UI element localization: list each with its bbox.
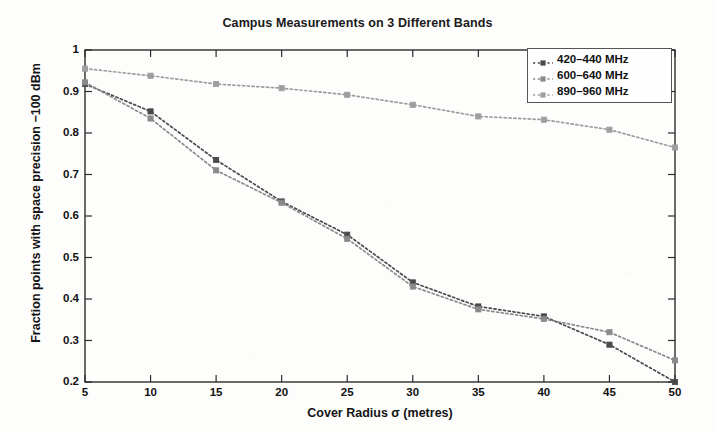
series-line-0	[85, 84, 675, 382]
series-600-640-mhz	[82, 80, 677, 363]
series-0-marker-9	[672, 379, 677, 384]
x-tick-label-6: 35	[458, 386, 498, 398]
series-0-marker-2	[214, 157, 219, 162]
x-tick-label-7: 40	[524, 386, 564, 398]
series-2-marker-3	[279, 86, 284, 91]
series-1-marker-5	[410, 284, 415, 289]
y-tick-label-6: 0.4	[39, 292, 79, 304]
figure-canvas: Campus Measurements on 3 Different Bands…	[0, 0, 715, 433]
legend-item-2[interactable]: 890–960 MHz	[528, 83, 671, 99]
series-2-marker-1	[148, 73, 153, 78]
legend-item-1[interactable]: 600–640 MHz	[528, 67, 671, 83]
y-tick-label-0: 1	[39, 43, 79, 55]
series-2-marker-4	[345, 92, 350, 97]
series-0-marker-1	[148, 109, 153, 114]
x-tick-label-5: 30	[393, 386, 433, 398]
series-1-marker-2	[214, 168, 219, 173]
x-tick-label-8: 45	[589, 386, 629, 398]
series-2-marker-2	[214, 81, 219, 86]
series-1-marker-6	[476, 307, 481, 312]
series-2-marker-7	[541, 117, 546, 122]
series-line-1	[85, 82, 675, 360]
x-axis-label: Cover Radius σ (metres)	[85, 406, 675, 420]
series-1-marker-0	[82, 80, 87, 85]
series-2-marker-9	[672, 145, 677, 150]
y-tick-label-2: 0.8	[39, 126, 79, 138]
y-tick-label-4: 0.6	[39, 209, 79, 221]
series-1-marker-1	[148, 116, 153, 121]
series-2-marker-5	[410, 102, 415, 107]
legend-item-0[interactable]: 420–440 MHz	[528, 51, 671, 67]
x-tick-label-1: 10	[131, 386, 171, 398]
legend-label-1: 600–640 MHz	[557, 69, 629, 81]
x-tick-label-0: 5	[65, 386, 105, 398]
legend-label-0: 420–440 MHz	[557, 53, 629, 65]
series-1-marker-7	[541, 316, 546, 321]
legend[interactable]: 420–440 MHz600–640 MHz890–960 MHz	[527, 48, 672, 103]
legend-line-marker-icon-2	[532, 86, 554, 96]
y-tick-label-3: 0.7	[39, 168, 79, 180]
series-1-marker-9	[672, 358, 677, 363]
x-tick-label-2: 15	[196, 386, 236, 398]
legend-line-marker-icon-0	[532, 54, 554, 64]
x-tick-label-3: 20	[262, 386, 302, 398]
series-2-marker-8	[607, 127, 612, 132]
legend-line-marker-icon-1	[532, 70, 554, 80]
x-tick-label-9: 50	[655, 386, 695, 398]
legend-label-2: 890–960 MHz	[557, 85, 629, 97]
series-1-marker-4	[345, 236, 350, 241]
series-2-marker-0	[82, 66, 87, 71]
y-tick-label-7: 0.3	[39, 334, 79, 346]
series-2-marker-6	[476, 114, 481, 119]
y-tick-label-5: 0.5	[39, 251, 79, 263]
series-1-marker-3	[279, 200, 284, 205]
series-1-marker-8	[607, 330, 612, 335]
series-420-440-mhz	[82, 81, 677, 384]
y-tick-label-1: 0.9	[39, 85, 79, 97]
x-tick-label-4: 25	[327, 386, 367, 398]
series-0-marker-8	[607, 342, 612, 347]
data-series	[82, 66, 677, 385]
